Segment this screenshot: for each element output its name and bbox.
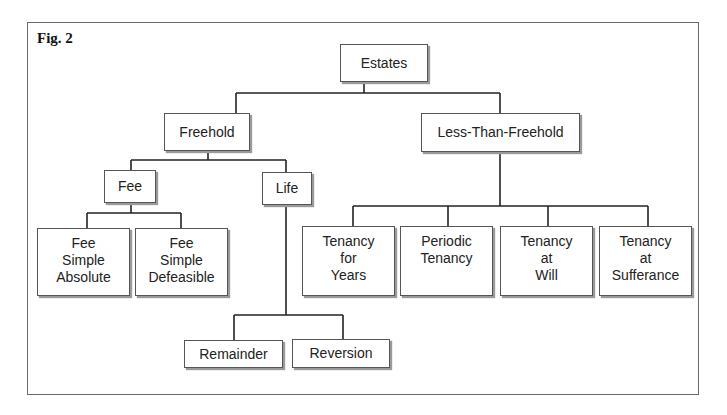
- node-label: Tenancy at Will: [520, 227, 572, 284]
- node-less-than-freehold: Less-Than-Freehold: [421, 113, 580, 152]
- node-label: Tenancy at Sufferance: [612, 227, 679, 284]
- node-estates: Estates: [340, 44, 428, 82]
- node-label: Tenancy for Years: [322, 227, 374, 284]
- node-label: Estates: [361, 55, 408, 72]
- node-freehold: Freehold: [164, 113, 250, 151]
- node-label: Freehold: [179, 124, 234, 141]
- node-label: Fee Simple Absolute: [56, 229, 110, 286]
- node-label: Less-Than-Freehold: [437, 124, 563, 141]
- node-tenancy-at-sufferance: Tenancy at Sufferance: [599, 226, 692, 296]
- node-label: Life: [276, 180, 299, 197]
- node-fee: Fee: [104, 170, 156, 203]
- node-periodic-tenancy: Periodic Tenancy: [400, 226, 493, 296]
- node-fee-simple-absolute: Fee Simple Absolute: [37, 228, 130, 296]
- node-tenancy-at-will: Tenancy at Will: [500, 226, 593, 296]
- node-tenancy-for-years: Tenancy for Years: [302, 226, 395, 296]
- node-label: Fee Simple Defeasible: [148, 229, 214, 286]
- node-reversion: Reversion: [292, 339, 390, 368]
- node-remainder: Remainder: [184, 340, 283, 368]
- node-label: Periodic Tenancy: [420, 227, 472, 267]
- node-label: Remainder: [199, 346, 267, 363]
- node-label: Fee: [118, 178, 142, 195]
- node-fee-simple-defeasible: Fee Simple Defeasible: [135, 228, 228, 296]
- node-label: Reversion: [309, 345, 372, 362]
- node-life: Life: [262, 172, 312, 205]
